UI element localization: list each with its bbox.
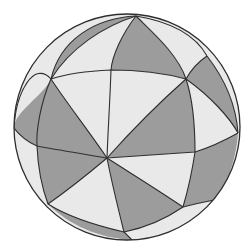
tessellated-sphere [0, 0, 251, 248]
sphere-figure [0, 0, 251, 248]
